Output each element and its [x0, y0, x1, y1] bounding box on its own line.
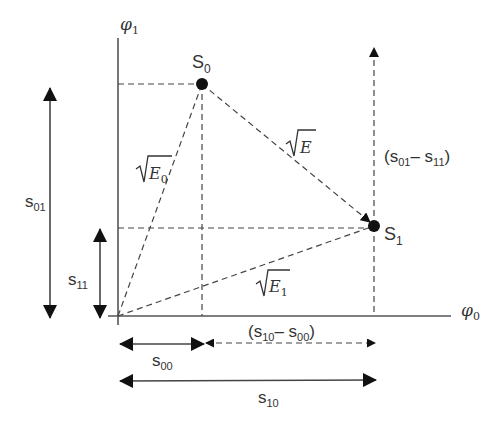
- label-S1: S1: [384, 224, 403, 248]
- label-sqrt-E: E: [286, 130, 316, 157]
- label-s00: s00: [152, 351, 173, 372]
- horizontal-dimensions: (s10– s00) s00 s10: [120, 322, 376, 409]
- label-sqrt-E1: E1: [256, 270, 290, 299]
- svg-text:E0: E0: [148, 164, 168, 186]
- y-axis-label: φ1: [120, 14, 139, 37]
- signal-space-diagram: φ1 φ0 S0 S1 E E0 E1: [0, 0, 501, 429]
- label-s11: s11: [68, 270, 88, 291]
- x-axis-label: φ0: [461, 300, 480, 323]
- svg-text:E1: E1: [268, 277, 288, 299]
- vector-E0: [118, 84, 202, 316]
- point-S0: [196, 78, 208, 90]
- label-s10: s10: [258, 388, 279, 409]
- axes: φ1 φ0: [108, 14, 480, 325]
- label-s01: s01: [25, 192, 46, 213]
- vector-E1: [118, 226, 374, 316]
- label-sqrt-E0: E0: [136, 156, 172, 186]
- vertical-dimensions: s01 s11: [25, 88, 100, 318]
- svg-text:E: E: [299, 138, 312, 157]
- point-S1: [368, 220, 380, 232]
- dimension-arrow-s10: [120, 380, 376, 381]
- label-S0: S0: [192, 52, 211, 76]
- vector-E: [202, 84, 370, 222]
- label-diff-vertical: (s01– s11): [384, 147, 450, 168]
- signal-points: S0 S1: [192, 52, 403, 248]
- projection-lines: [118, 84, 374, 316]
- label-diff-horizontal: (s10– s00): [248, 322, 315, 343]
